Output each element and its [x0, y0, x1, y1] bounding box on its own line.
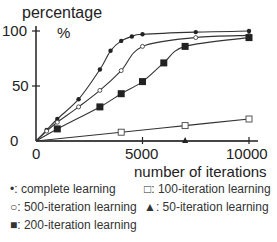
legend-item-50: ▲: 50-iteration learning [144, 200, 269, 214]
y-tick-0: 0 [10, 132, 18, 149]
legend-item-500: ○: 500-iteration learning [10, 200, 137, 214]
legend-item-complete: •: complete learning [10, 182, 116, 196]
y-tick-100: 100 [2, 22, 27, 39]
y-axis-label: percentage [22, 4, 102, 22]
y-tick-50: 50 [12, 77, 29, 94]
open-circle-icon: ○: [10, 200, 21, 214]
legend-label: complete learning [21, 182, 116, 196]
filled-square-icon: ■: [10, 218, 21, 232]
x-axis-label: number of iterations [134, 163, 267, 180]
x-tick-0: 0 [32, 145, 40, 162]
legend-item-200: ■: 200-iteration learning [10, 218, 137, 232]
x-tick-10000: 10000 [226, 145, 268, 162]
legend-item-100: □: 100-iteration learning [144, 182, 271, 196]
filled-triangle-icon: ▲: [144, 200, 159, 214]
filled-circle-icon: •: [10, 182, 18, 196]
legend-label: 500-iteration learning [24, 200, 137, 214]
y-axis-unit: % [57, 24, 70, 41]
x-tick-5000: 5000 [125, 145, 158, 162]
series-line [36, 38, 249, 141]
legend-label: 200-iteration learning [24, 218, 137, 232]
legend-label: 50-iteration learning [163, 200, 269, 214]
legend-label: 100-iteration learning [158, 182, 271, 196]
series-line [36, 35, 249, 141]
open-square-icon: □: [144, 182, 155, 196]
chart: percentage % 100 50 0 0 5000 10000 numbe… [0, 0, 277, 242]
